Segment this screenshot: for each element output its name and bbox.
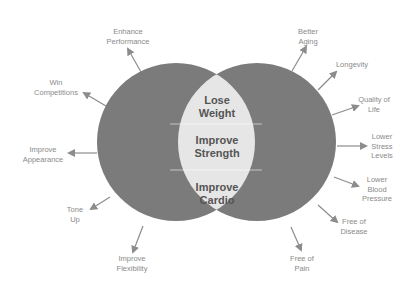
venn-diagram: Lose Weight Improve Strength Improve Car… bbox=[0, 0, 415, 287]
arrow-free-of-disease bbox=[318, 205, 337, 222]
label-better-aging: Better Aging bbox=[298, 27, 318, 46]
label-win-competitions: Win Competitions bbox=[34, 78, 78, 97]
arrow-enhance-performance bbox=[128, 49, 141, 72]
arrow-improve-flexibility bbox=[133, 226, 143, 252]
label-quality-of-life: Quality of Life bbox=[358, 95, 390, 114]
arrow-free-of-pain bbox=[291, 227, 301, 250]
label-improve-flexibility: Improve Flexibility bbox=[117, 254, 148, 273]
overlap-label-lose-weight: Lose Weight bbox=[199, 94, 235, 120]
arrow-longevity bbox=[318, 72, 336, 90]
label-free-of-disease: Free of Disease bbox=[340, 217, 367, 236]
arrow-better-aging bbox=[292, 47, 306, 71]
arrow-quality-of-life bbox=[332, 106, 358, 115]
label-lower-blood-pressure: Lower Blood Pressure bbox=[362, 175, 392, 204]
label-free-of-pain: Free of Pain bbox=[290, 254, 314, 273]
label-longevity: Longevity bbox=[336, 60, 368, 70]
arrow-tone-up bbox=[91, 197, 110, 209]
label-enhance-performance: Enhance Performance bbox=[107, 27, 150, 46]
arrow-win-competitions bbox=[84, 93, 106, 106]
label-improve-appearance: Improve Appearance bbox=[23, 145, 63, 164]
label-lower-stress-levels: Lower Stress Levels bbox=[371, 132, 393, 161]
overlap-label-improve-strength: Improve Strength bbox=[194, 134, 239, 160]
overlap-label-improve-cardio: Improve Cardio bbox=[196, 181, 239, 207]
label-tone-up: Tone Up bbox=[67, 205, 83, 224]
arrow-lower-blood-pressure bbox=[334, 177, 358, 186]
